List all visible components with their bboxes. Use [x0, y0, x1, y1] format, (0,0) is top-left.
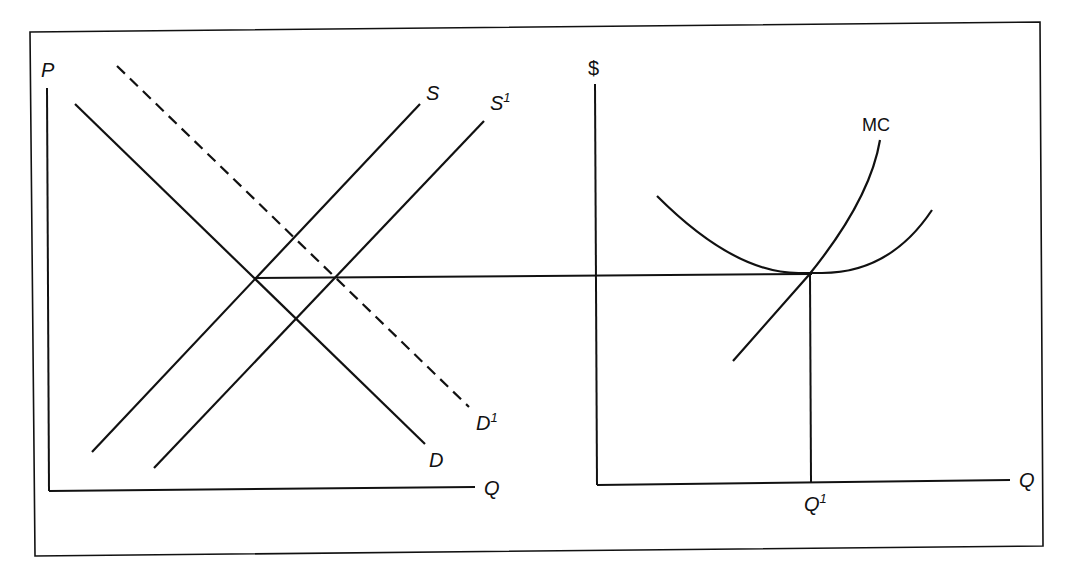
left-panel-supply-demand: P Q D D1 S S1 [41, 59, 511, 499]
quantity-axis-label-left: Q [484, 477, 500, 499]
dollar-axis-label: $ [588, 57, 599, 79]
quantity-axis-right [597, 480, 1010, 485]
dollar-axis [595, 84, 597, 485]
q1-vertical-line [810, 275, 811, 482]
price-axis-label: P [41, 59, 55, 81]
demand-label-d1: D1 [476, 410, 498, 434]
marginal-cost-label: MC [862, 115, 890, 135]
economics-diagram: P Q D D1 S S1 $ Q MC Q1 [0, 0, 1072, 576]
quantity-axis-label-right: Q [1019, 469, 1035, 491]
supply-curve-s1 [154, 121, 484, 468]
q1-label: Q1 [804, 491, 827, 515]
demand-label-d: D [429, 449, 443, 471]
right-panel-firm-costs: $ Q MC Q1 [588, 57, 1035, 515]
u-shaped-average-cost-curve [657, 196, 932, 273]
supply-label-s1: S1 [490, 90, 511, 114]
supply-label-s: S [426, 82, 440, 104]
quantity-axis-left [49, 487, 475, 491]
marginal-cost-curve [733, 140, 880, 361]
demand-curve-d1-dashed [117, 66, 469, 407]
price-axis [47, 88, 49, 491]
outer-frame [30, 22, 1043, 556]
